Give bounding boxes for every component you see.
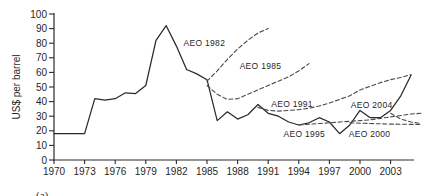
y-tick-label: 70 [36, 52, 48, 63]
x-tick-label: 1982 [165, 166, 188, 177]
x-tick-label: 1970 [43, 166, 66, 177]
series-label-aeo-1985: AEO 1985 [240, 61, 282, 71]
y-tick-label: 40 [36, 96, 48, 107]
series-line-aeo-1982 [207, 29, 268, 82]
x-tick-label: 2000 [349, 166, 372, 177]
y-tick-label: 80 [36, 38, 48, 49]
figure-panel: 0102030405060708090100197019731976197919… [0, 0, 428, 196]
y-tick-label: 100 [30, 9, 47, 20]
series-label-aeo-1982: AEO 1982 [184, 38, 226, 48]
series-label-aeo-2000: AEO 2000 [349, 129, 391, 139]
y-tick-label: 10 [36, 140, 48, 151]
x-tick-label: 1973 [73, 166, 96, 177]
series-label-aeo-1995: AEO 1995 [284, 129, 326, 139]
y-axis-title: US$ per barrel [11, 54, 22, 119]
x-tick-label: 1979 [135, 166, 158, 177]
x-tick-label: 1976 [104, 166, 127, 177]
y-tick-label: 0 [41, 155, 47, 166]
x-tick-label: 2003 [379, 166, 402, 177]
series-label-aeo-1991: AEO 1991 [271, 99, 313, 109]
series-line-aeo-2000 [350, 123, 421, 125]
y-tick-label: 30 [36, 111, 48, 122]
y-tick-label: 90 [36, 23, 48, 34]
series-line-actual-oil-price [54, 26, 411, 134]
y-tick-label: 20 [36, 125, 48, 136]
x-tick-label: 1988 [226, 166, 249, 177]
series-label-aeo-2004: AEO 2004 [351, 100, 393, 110]
oil-price-forecast-chart: 0102030405060708090100197019731976197919… [0, 0, 428, 196]
x-tick-label: 1985 [196, 166, 219, 177]
x-tick-label: 1991 [257, 166, 280, 177]
y-tick-label: 50 [36, 82, 48, 93]
x-tick-label: 1994 [288, 166, 311, 177]
x-tick-label: 1997 [318, 166, 341, 177]
panel-label: (a) [36, 189, 48, 196]
y-tick-label: 60 [36, 67, 48, 78]
